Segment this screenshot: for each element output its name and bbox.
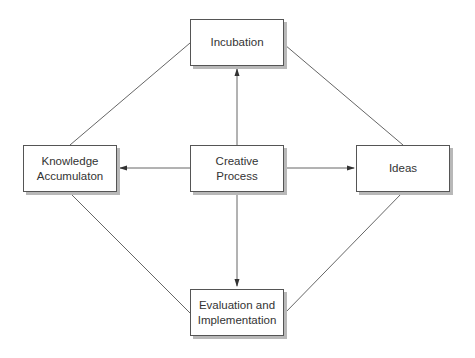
edge-ideas-evaluation: [285, 193, 402, 313]
node-label: Ideas: [389, 161, 417, 176]
edge-knowledge-evaluation: [70, 193, 190, 313]
node-creative-process: Creative Process: [190, 145, 284, 192]
node-ideas: Ideas: [356, 145, 450, 192]
edge-incubation-ideas: [285, 45, 403, 145]
node-label: Knowledge Accumulaton: [37, 154, 103, 184]
node-evaluation-implementation: Evaluation and Implementation: [190, 289, 284, 336]
node-label: Incubation: [210, 35, 263, 50]
node-label: Evaluation and Implementation: [198, 298, 277, 328]
edge-incubation-knowledge: [70, 43, 190, 145]
node-label: Creative Process: [216, 154, 259, 184]
node-incubation: Incubation: [190, 19, 284, 66]
node-knowledge-accumulation: Knowledge Accumulaton: [23, 145, 117, 192]
